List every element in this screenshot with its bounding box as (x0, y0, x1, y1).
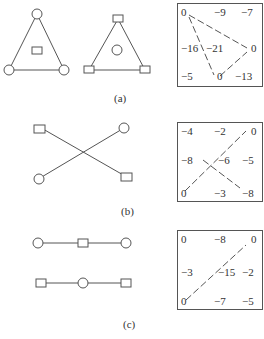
matrix-cell: −3 (181, 266, 193, 278)
caption-a: (a) (114, 92, 126, 104)
matrix-cell: −3 (214, 187, 226, 199)
matrix-cell: −13 (235, 70, 252, 82)
matrix-a: 0 −9 −7 −16 −21 0 −5 0 −13 (177, 3, 263, 87)
matrix-cell: −6 (218, 154, 230, 166)
matrix-cell: 0 (181, 295, 187, 307)
matrix-cell: 0 (251, 125, 257, 137)
caption-c: (c) (123, 318, 135, 330)
matrix-cell: −5 (181, 70, 193, 82)
caption-b: (b) (121, 205, 134, 217)
square-node (121, 173, 132, 181)
matrix-cell: 0 (181, 6, 187, 18)
circle-node (59, 65, 69, 75)
matrix-cell: −7 (214, 295, 226, 307)
square-node (84, 66, 94, 73)
square-node (36, 279, 46, 287)
matrix-cell: −5 (242, 154, 254, 166)
circle-node (4, 65, 14, 75)
matrix-cell: −21 (206, 42, 223, 54)
matrix-cell: −5 (242, 295, 254, 307)
circle-node (32, 9, 42, 19)
matrix-cell: −8 (214, 233, 226, 245)
graph-c-top (33, 238, 131, 248)
square-node (32, 47, 42, 54)
graph-c-bottom (36, 278, 131, 288)
matrix-b: −4 −2 0 −8 −6 −5 0 −3 −8 (177, 122, 263, 202)
matrix-cell: 0 (251, 42, 257, 54)
matrix-cell: −9 (214, 6, 226, 18)
circle-node (121, 238, 131, 248)
matrix-cell: 0 (181, 187, 187, 199)
matrix-cell: −4 (181, 125, 193, 137)
square-node (34, 125, 45, 133)
square-node (113, 15, 123, 22)
matrix-cell: −2 (242, 266, 254, 278)
circle-node (119, 123, 129, 133)
matrix-cell: 0 (251, 233, 257, 245)
square-node (140, 66, 150, 73)
circle-node (33, 238, 43, 248)
matrix-cell: −7 (241, 6, 253, 18)
matrix-cell: −2 (214, 125, 226, 137)
square-node (121, 279, 131, 287)
circle-node (34, 174, 44, 184)
matrix-cell: −16 (181, 42, 198, 54)
matrix-cell: 0 (217, 70, 223, 82)
graph-b (34, 123, 132, 184)
circle-node (112, 45, 122, 55)
graph-a-right (84, 15, 150, 73)
graph-a-left (4, 9, 69, 75)
matrix-cell: 0 (181, 233, 187, 245)
square-node (78, 239, 88, 247)
matrix-cell: −15 (218, 266, 235, 278)
matrix-cell: −8 (242, 187, 254, 199)
matrix-c: 0 −8 0 −3 −15 −2 0 −7 −5 (177, 230, 263, 310)
matrix-cell: −8 (181, 154, 193, 166)
circle-node (78, 278, 88, 288)
